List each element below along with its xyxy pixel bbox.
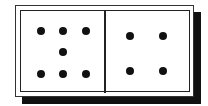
left-pip [37,70,45,78]
left-pip [37,27,45,35]
left-pip [82,70,90,78]
left-pip [59,70,67,78]
right-pip [159,67,167,75]
right-pip [126,67,134,75]
domino-divider [104,10,106,93]
left-pip [82,27,90,35]
left-pip [59,27,67,35]
left-pip [59,48,67,56]
right-pip [126,32,134,40]
right-pip [159,32,167,40]
